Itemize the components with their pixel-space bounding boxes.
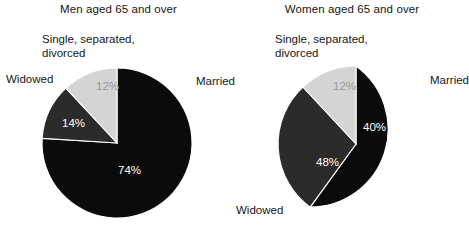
- callout-single-women: Single, separated, divorced: [275, 33, 400, 60]
- callout-single-women-line2: divorced: [275, 47, 400, 61]
- callout-married-men: Married: [196, 75, 235, 89]
- pie-value-married-men: 74%: [118, 164, 141, 176]
- pie-value-married-women: 40%: [363, 121, 386, 133]
- callout-single-women-line1: Single, separated,: [275, 33, 400, 47]
- pie-value-single-women: 12%: [333, 80, 356, 92]
- callout-married-women: Married: [430, 74, 469, 88]
- panel-women: Women aged 65 and over Single, separated…: [237, 0, 467, 245]
- panel-title-men: Men aged 65 and over: [0, 3, 237, 15]
- panel-men: Men aged 65 and over Single, separated, …: [0, 0, 237, 245]
- callout-single-men: Single, separated, divorced: [42, 33, 167, 60]
- callout-widowed-women: Widowed: [236, 204, 283, 218]
- panel-title-women: Women aged 65 and over: [237, 3, 467, 15]
- pie-value-widowed-women: 48%: [316, 156, 339, 168]
- pie-value-single-men: 12%: [96, 80, 119, 92]
- pie-value-widowed-men: 14%: [62, 117, 85, 129]
- callout-widowed-men: Widowed: [6, 73, 53, 87]
- callout-single-men-line2: divorced: [42, 47, 167, 61]
- callout-single-men-line1: Single, separated,: [42, 33, 167, 47]
